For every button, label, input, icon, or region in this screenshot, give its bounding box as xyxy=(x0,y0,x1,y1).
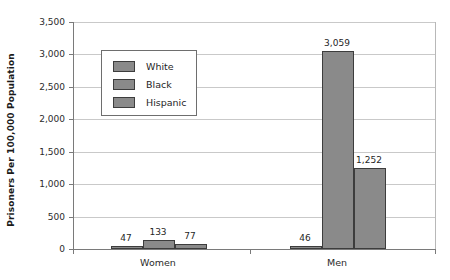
plot-frame-right-edge xyxy=(435,22,436,250)
bar-value-label: 3,059 xyxy=(324,38,350,48)
gridline xyxy=(74,119,436,120)
bar-value-label: 77 xyxy=(184,231,195,241)
y-axis-tick-mark xyxy=(69,184,73,185)
y-axis-tick-mark xyxy=(69,217,73,218)
y-axis-tick-label: 2,500 xyxy=(21,82,65,92)
legend-label: Hispanic xyxy=(146,97,186,108)
y-axis-tick-label: 1,000 xyxy=(21,179,65,189)
bar xyxy=(322,51,354,249)
y-axis-tick-mark xyxy=(69,22,73,23)
bar xyxy=(143,240,175,249)
chart-legend: WhiteBlackHispanic xyxy=(101,50,197,116)
gridline xyxy=(74,22,436,23)
y-axis-tick-mark xyxy=(69,54,73,55)
legend-label: White xyxy=(146,61,174,72)
legend-swatch xyxy=(113,61,135,72)
legend-item: White xyxy=(102,57,196,75)
y-axis-tick-label: 2,000 xyxy=(21,114,65,124)
legend-item: Hispanic xyxy=(102,93,196,111)
legend-item: Black xyxy=(102,75,196,93)
y-axis-tick-label: 3,000 xyxy=(21,49,65,59)
x-axis-tick-mark xyxy=(250,249,251,254)
bar xyxy=(111,246,143,249)
y-axis-title: Prisoners Per 100,000 Population xyxy=(0,0,22,280)
bar xyxy=(354,168,386,249)
legend-swatch xyxy=(113,97,135,108)
legend-swatch xyxy=(113,79,135,90)
y-axis-tick-label: 3,500 xyxy=(21,17,65,27)
bar-value-label: 46 xyxy=(299,233,310,243)
gridline xyxy=(74,152,436,153)
y-axis-tick-mark xyxy=(69,119,73,120)
bar-value-label: 1,252 xyxy=(356,155,382,165)
y-axis-tick-mark xyxy=(69,152,73,153)
x-axis-tick-mark xyxy=(435,249,436,254)
y-axis-tick-label: 0 xyxy=(21,244,65,254)
bar xyxy=(290,246,322,249)
y-axis-tick-label: 500 xyxy=(21,212,65,222)
bar-value-label: 47 xyxy=(120,233,131,243)
y-axis-tick-mark xyxy=(69,87,73,88)
bar-value-label: 133 xyxy=(149,227,166,237)
x-axis-tick-mark xyxy=(73,249,74,254)
y-axis-tick-label: 1,500 xyxy=(21,147,65,157)
x-axis-category-label: Women xyxy=(140,257,176,268)
x-axis-category-label: Men xyxy=(327,257,347,268)
bar-chart: Prisoners Per 100,000 Population 05001,0… xyxy=(0,0,450,280)
bar xyxy=(175,244,207,249)
legend-label: Black xyxy=(146,79,172,90)
